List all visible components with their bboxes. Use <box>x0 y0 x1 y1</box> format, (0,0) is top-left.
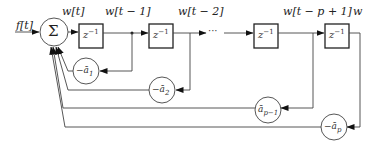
coef-label-2: −ā2 <box>152 85 169 97</box>
signal-label-w-t-p-1: w[t − p + 1] <box>283 6 352 17</box>
delay-label-2: z−1 <box>153 29 169 40</box>
sum-symbol: Σ <box>48 24 59 39</box>
signal-label-w: w <box>353 6 362 17</box>
signal-label-w-t-1: w[t − 1] <box>105 6 151 17</box>
coef-label-p: −āp <box>324 122 341 134</box>
signal-label-w-t: w[t] <box>62 6 84 17</box>
signal-label-w-t-2: w[t − 2] <box>178 6 224 17</box>
coef-label-1: −ā1 <box>76 66 93 78</box>
delay-label-3: z−1 <box>258 29 274 40</box>
autoregressive-filter-diagram: f[t] Σ w[t] w[t − 1] w[t − 2] w[t − p + … <box>0 0 373 148</box>
delay-label-1: z−1 <box>83 29 99 40</box>
delay-label-4: z−1 <box>329 29 345 40</box>
input-label: f[t] <box>16 20 33 31</box>
ellipsis: ··· <box>208 25 218 36</box>
coef-label-p-minus-1: āp−1 <box>258 105 278 117</box>
